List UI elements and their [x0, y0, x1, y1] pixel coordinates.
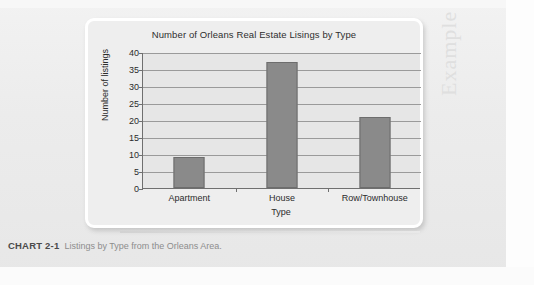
x-tick-label: Row/Townhouse — [342, 193, 408, 203]
plot-area: 0510152025303540 ApartmentHouseRow/Townh… — [142, 53, 420, 189]
bar-slot: Apartment — [143, 52, 236, 188]
x-tick-mark — [328, 188, 329, 192]
bleed-through-watermark: Example — [436, 0, 462, 96]
bar-slot: Row/Townhouse — [328, 52, 421, 188]
bar — [174, 157, 205, 188]
page-bottom-edge — [0, 267, 534, 285]
y-tick-label: 35 — [129, 65, 139, 75]
y-tick-label: 0 — [134, 184, 139, 194]
page-right-margin — [506, 0, 534, 285]
y-tick-label: 15 — [129, 133, 139, 143]
plot-wrapper: 0510152025303540 ApartmentHouseRow/Townh… — [142, 53, 420, 189]
bar-slot: House — [236, 52, 329, 188]
x-tick-mark — [236, 188, 237, 192]
y-tick-label: 20 — [129, 116, 139, 126]
y-tick-label: 30 — [129, 82, 139, 92]
figure-panel: Number of Orleans Real Estate Lisings by… — [85, 18, 423, 228]
y-axis-title: Number of listings — [100, 49, 110, 121]
bar — [359, 117, 390, 188]
y-tick-mark — [139, 189, 143, 190]
chart-title: Number of Orleans Real Estate Lisings by… — [88, 29, 420, 40]
y-tick-label: 25 — [129, 99, 139, 109]
y-tick-label: 40 — [129, 48, 139, 58]
caption-label: CHART 2-1 — [8, 240, 59, 251]
x-axis-title: Type — [142, 207, 420, 217]
y-tick-label: 5 — [134, 167, 139, 177]
x-tick-label: Apartment — [169, 193, 211, 203]
caption-description: Listings by Type from the Orleans Area. — [64, 241, 221, 251]
bar — [266, 62, 297, 188]
caption-rule — [120, 231, 420, 233]
y-tick-label: 10 — [129, 150, 139, 160]
figure-caption: CHART 2-1Listings by Type from the Orlea… — [8, 240, 222, 251]
x-tick-label: House — [269, 193, 295, 203]
